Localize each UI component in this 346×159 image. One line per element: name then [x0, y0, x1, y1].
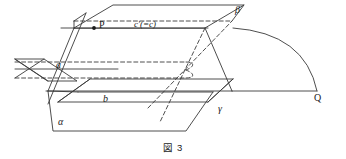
figure-caption: 図 3	[0, 140, 346, 154]
label-plane-gamma: γ	[218, 104, 222, 114]
figure-3-container: P c'(=c) β γ α a b Q 図 3	[0, 0, 346, 159]
dashed-right-cap-lower	[186, 70, 193, 78]
edge-beta-right-to-base	[205, 28, 232, 91]
edge-gamma-right-diagonal	[208, 79, 233, 102]
arc-to-q	[233, 28, 317, 91]
edge-beta-to-alpha-left	[48, 28, 74, 91]
label-point-p: P	[99, 20, 105, 30]
label-plane-alpha: α	[58, 117, 63, 127]
label-line-a: a	[56, 60, 61, 70]
label-point-q: Q	[314, 93, 321, 103]
geometry-diagram	[0, 0, 346, 159]
plane-gamma-outline	[58, 79, 233, 102]
edge-gamma-left-diagonal	[58, 79, 90, 102]
edge-left-long-diagonal	[48, 13, 86, 104]
plane-alpha-outline	[48, 91, 213, 131]
dashed-diagonal-descending	[160, 28, 205, 122]
label-line-c-prime: c'(=c)	[134, 20, 156, 29]
dashed-diagonal-ascending	[148, 21, 232, 108]
label-plane-beta: β	[235, 5, 240, 15]
label-line-b: b	[103, 94, 108, 104]
point-p-marker	[92, 26, 96, 30]
